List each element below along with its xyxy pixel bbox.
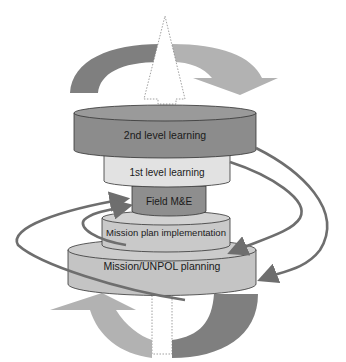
label-2nd-level-learning: 2nd level learning (124, 129, 206, 141)
layer-mission-plan-implementation: Mission plan implementation (102, 211, 230, 252)
label-field-me: Field M&E (146, 196, 192, 207)
label-mission-plan-implementation: Mission plan implementation (106, 227, 226, 238)
label-mission-unpol-planning: Mission/UNPOL planning (104, 260, 221, 272)
learning-cycle-diagram: Mission/UNPOL planning Mission plan impl… (0, 0, 346, 362)
layer-field-me: Field M&E (132, 186, 206, 216)
layer-1st-level-learning: 1st level learning (104, 155, 230, 187)
connector-1st-to-implementation (230, 162, 302, 252)
label-1st-level-learning: 1st level learning (129, 167, 204, 178)
layer-2nd-level-learning: 2nd level learning (74, 105, 256, 158)
connector-2nd-to-planning (256, 148, 327, 279)
